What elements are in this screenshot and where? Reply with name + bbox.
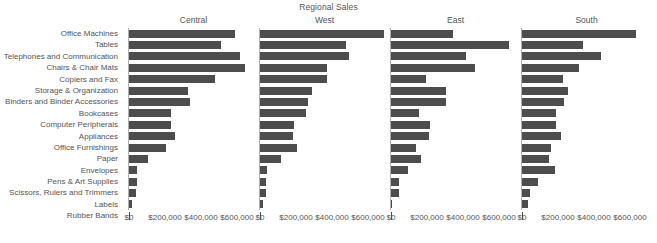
bar[interactable] xyxy=(129,132,175,140)
bar[interactable] xyxy=(522,166,555,174)
bar[interactable] xyxy=(260,75,327,83)
bar-row xyxy=(129,74,259,85)
bar[interactable] xyxy=(391,189,399,197)
bar[interactable] xyxy=(129,52,240,60)
bar[interactable] xyxy=(129,109,171,117)
bar-row xyxy=(129,28,259,39)
bar[interactable] xyxy=(391,41,509,49)
bar-row xyxy=(522,108,652,119)
bar[interactable] xyxy=(260,132,293,140)
bar-row xyxy=(129,51,259,62)
x-tick-label: $600,000 xyxy=(220,213,253,222)
bar-row xyxy=(129,153,259,164)
bar[interactable] xyxy=(129,189,136,197)
bar[interactable] xyxy=(129,155,148,163)
bar[interactable] xyxy=(260,121,294,129)
bar[interactable] xyxy=(522,144,551,152)
bar-row xyxy=(522,119,652,130)
bar[interactable] xyxy=(391,144,416,152)
bar[interactable] xyxy=(522,155,549,163)
bar[interactable] xyxy=(260,41,346,49)
bar[interactable] xyxy=(522,189,530,197)
bar-row xyxy=(391,85,521,96)
bar[interactable] xyxy=(129,166,137,174)
bar[interactable] xyxy=(522,132,561,140)
bar-row xyxy=(391,165,521,176)
bar-row xyxy=(391,28,521,39)
bar[interactable] xyxy=(391,132,429,140)
bar[interactable] xyxy=(129,64,245,72)
bar[interactable] xyxy=(391,200,392,208)
bar-row xyxy=(522,142,652,153)
bar[interactable] xyxy=(522,64,579,72)
bar[interactable] xyxy=(391,87,446,95)
bar[interactable] xyxy=(129,178,137,186)
bar-row xyxy=(522,28,652,39)
bar-row xyxy=(129,62,259,73)
bar[interactable] xyxy=(391,52,466,60)
bar[interactable] xyxy=(391,178,399,186)
bar[interactable] xyxy=(522,75,563,83)
bar[interactable] xyxy=(129,121,171,129)
bar-row xyxy=(260,142,390,153)
bar[interactable] xyxy=(129,41,221,49)
bar-row xyxy=(260,74,390,85)
bar[interactable] xyxy=(260,166,267,174)
panel-south: South$0$200,000$400,000$600,000 xyxy=(521,14,652,243)
bar[interactable] xyxy=(260,155,281,163)
bar[interactable] xyxy=(522,109,556,117)
x-tick-label: $200,000 xyxy=(410,213,443,222)
bar[interactable] xyxy=(522,41,583,49)
x-axis-labels: $0$200,000$400,000$600,000 xyxy=(521,213,652,227)
bar[interactable] xyxy=(260,87,312,95)
bar-row xyxy=(260,51,390,62)
bar[interactable] xyxy=(260,98,308,106)
bar[interactable] xyxy=(522,200,528,208)
plot-area xyxy=(259,28,390,210)
panel-central: Central$0$200,000$400,000$600,000 xyxy=(128,14,259,243)
bar[interactable] xyxy=(391,75,426,83)
bar[interactable] xyxy=(391,64,475,72)
bar[interactable] xyxy=(522,178,538,186)
bar[interactable] xyxy=(129,98,190,106)
bar[interactable] xyxy=(260,52,349,60)
panel-header-east: East xyxy=(390,14,521,27)
bar[interactable] xyxy=(522,52,601,60)
bar[interactable] xyxy=(391,98,446,106)
plot-area xyxy=(390,28,521,210)
bar[interactable] xyxy=(260,109,306,117)
bar-row xyxy=(522,131,652,142)
bar[interactable] xyxy=(260,64,327,72)
bar[interactable] xyxy=(129,75,215,83)
bar[interactable] xyxy=(522,30,636,38)
bar[interactable] xyxy=(391,121,430,129)
x-axis-labels: $0$200,000$400,000$600,000 xyxy=(390,213,521,227)
bar[interactable] xyxy=(260,189,266,197)
bar[interactable] xyxy=(391,166,408,174)
bar[interactable] xyxy=(522,98,564,106)
bar[interactable] xyxy=(260,178,266,186)
bar-row xyxy=(129,165,259,176)
bar-row xyxy=(391,62,521,73)
bar-rows xyxy=(129,28,259,210)
bar[interactable] xyxy=(522,121,556,129)
bar-row xyxy=(260,187,390,198)
bar-row xyxy=(522,153,652,164)
plot-area xyxy=(128,28,259,210)
bar[interactable] xyxy=(391,109,419,117)
bar-row xyxy=(522,187,652,198)
bar[interactable] xyxy=(129,30,235,38)
bar[interactable] xyxy=(260,200,263,208)
bar[interactable] xyxy=(129,200,132,208)
bar-row xyxy=(260,85,390,96)
bar[interactable] xyxy=(129,144,166,152)
bar[interactable] xyxy=(129,87,188,95)
regional-sales-chart: Regional Sales Office MachinesTablesTele… xyxy=(0,0,657,243)
chart-title: Regional Sales xyxy=(0,2,657,12)
bar[interactable] xyxy=(391,30,453,38)
bar[interactable] xyxy=(522,87,568,95)
bar[interactable] xyxy=(391,155,421,163)
bar[interactable] xyxy=(260,144,297,152)
bar[interactable] xyxy=(260,30,384,38)
x-tick-label: $200,000 xyxy=(541,213,574,222)
